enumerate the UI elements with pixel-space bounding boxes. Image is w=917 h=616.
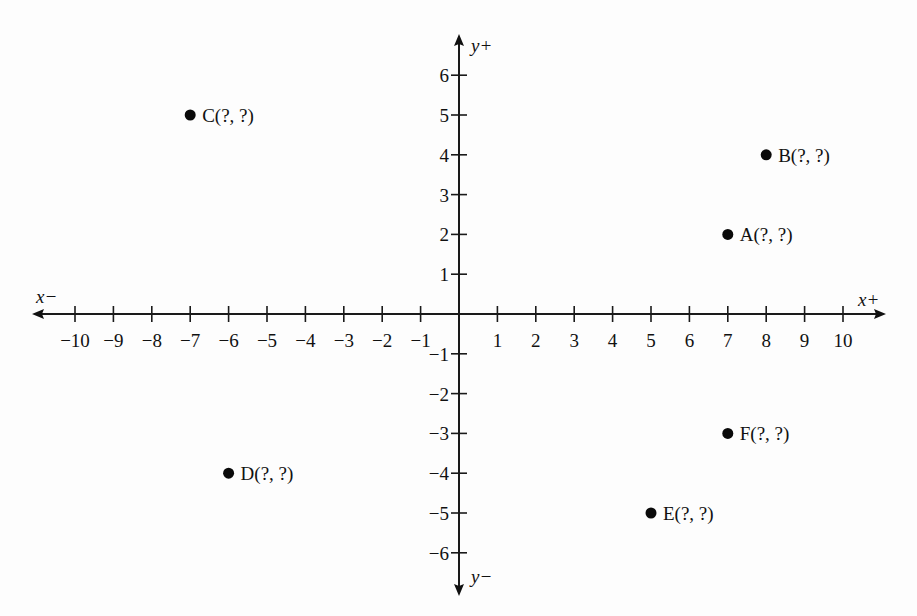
y-tick-label: 2 (440, 224, 450, 245)
point-f: F(?, ?) (722, 423, 789, 445)
x-positive-label: x+ (857, 289, 879, 310)
point-label: E(?, ?) (663, 503, 714, 525)
y-tick-label: −3 (429, 423, 449, 444)
y-tick-label: −5 (429, 503, 449, 524)
y-tick-label: −1 (429, 344, 449, 365)
y-tick-label: −2 (429, 384, 449, 405)
axis-names: x− x+ y+ y− (35, 35, 879, 587)
y-tick-label: 3 (440, 185, 450, 206)
x-tick-label: 8 (761, 330, 771, 351)
point-marker-icon (646, 508, 657, 519)
point-label: C(?, ?) (202, 105, 254, 127)
point-c: C(?, ?) (185, 105, 254, 127)
y-tick-label: 1 (440, 264, 450, 285)
y-tick-label: −4 (429, 463, 450, 484)
x-tick-label: −3 (334, 330, 354, 351)
x-tick-label: 2 (531, 330, 541, 351)
x-tick-label: −7 (180, 330, 200, 351)
point-label: A(?, ?) (740, 224, 793, 246)
point-d: D(?, ?) (223, 463, 293, 485)
x-tick-label: 1 (493, 330, 503, 351)
x-tick-label: −10 (60, 330, 90, 351)
x-tick-label: 7 (723, 330, 733, 351)
y-tick-label: 4 (440, 145, 450, 166)
x-tick-label: −5 (257, 330, 277, 351)
point-marker-icon (223, 468, 234, 479)
point-marker-icon (722, 428, 733, 439)
point-label: B(?, ?) (778, 145, 830, 167)
y-negative-label: y− (469, 566, 492, 587)
point-marker-icon (761, 149, 772, 160)
x-tick-label: 3 (569, 330, 579, 351)
x-tick-label: −6 (218, 330, 238, 351)
x-negative-label: x− (35, 286, 57, 307)
x-tick-label: −1 (410, 330, 430, 351)
x-tick-label: 6 (685, 330, 695, 351)
x-tick-label: −8 (142, 330, 162, 351)
x-axis-ticks: −10−9−8−7−6−5−4−3−2−112345678910 (60, 306, 852, 351)
point-label: D(?, ?) (241, 463, 294, 485)
x-tick-label: 5 (646, 330, 656, 351)
x-tick-label: −2 (372, 330, 392, 351)
x-tick-label: 4 (608, 330, 618, 351)
point-b: B(?, ?) (761, 145, 830, 167)
y-positive-label: y+ (469, 35, 492, 56)
point-label: F(?, ?) (740, 423, 790, 445)
point-marker-icon (185, 110, 196, 121)
x-tick-label: −4 (295, 330, 316, 351)
x-tick-label: 9 (800, 330, 810, 351)
plot-canvas: −10−9−8−7−6−5−4−3−2−112345678910 −6−5−4−… (0, 0, 917, 616)
point-marker-icon (722, 229, 733, 240)
point-e: E(?, ?) (646, 503, 714, 525)
axes (32, 34, 886, 596)
point-a: A(?, ?) (722, 224, 792, 246)
y-tick-label: 5 (440, 105, 450, 126)
x-tick-label: −9 (103, 330, 123, 351)
coordinate-plane-chart: −10−9−8−7−6−5−4−3−2−112345678910 −6−5−4−… (0, 0, 917, 616)
x-tick-label: 10 (834, 330, 853, 351)
y-tick-label: 6 (440, 65, 450, 86)
y-tick-label: −6 (429, 543, 449, 564)
